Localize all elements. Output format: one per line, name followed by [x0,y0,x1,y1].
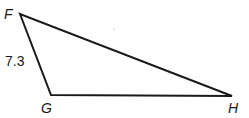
vertex-label-g: G [41,100,52,116]
triangle-diagram: F 7.3 G H [0,0,249,118]
triangle-fgh [20,14,232,96]
stray-dot [113,28,114,29]
vertex-label-h: H [228,100,239,116]
side-label-fg: 7.3 [5,53,25,69]
vertex-label-f: F [4,6,14,22]
